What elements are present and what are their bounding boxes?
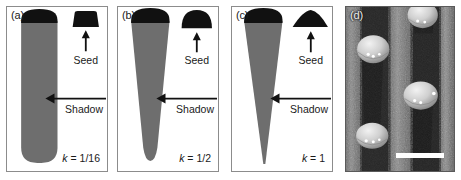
- k-value-a: 1/16: [80, 152, 100, 164]
- shadow-label-b: Shadow: [176, 103, 214, 115]
- shadow-shape-b: [131, 21, 169, 161]
- shadow-label-a: Shadow: [65, 103, 103, 115]
- shadow-label-c: Shadow: [290, 103, 328, 115]
- seed-label-a: Seed: [73, 54, 98, 66]
- k-equals-b: =: [184, 152, 196, 164]
- shadow-shape-a: [21, 21, 57, 163]
- panel-c: (c) Seed Shadow k = 1: [231, 6, 333, 172]
- panel-d: (d): [345, 6, 455, 172]
- seed-arrow-head-c: [307, 31, 315, 39]
- k-value-b: 1/2: [196, 152, 211, 164]
- seed-label-b: Seed: [184, 54, 209, 66]
- panel-c-diagram: [232, 7, 332, 171]
- panel-a-label: (a): [11, 9, 24, 21]
- seed-cap-a: [21, 9, 57, 23]
- k-label-a: k = 1/16: [62, 152, 100, 164]
- seed-label-c: Seed: [298, 54, 323, 66]
- seed-arrow-head-b: [193, 32, 201, 40]
- seed-glyph-a: [73, 11, 99, 27]
- seed-cap-c: [244, 8, 282, 23]
- scale-bar: [396, 153, 444, 158]
- particle-middle-right: [404, 81, 438, 109]
- k-value-c: 1: [319, 152, 325, 164]
- particle-upper-left: [357, 35, 389, 63]
- seed-arrow-head-a: [82, 30, 90, 38]
- panel-b: (b) Seed Shadow k = 1/2: [117, 6, 219, 172]
- k-label-c: k = 1: [302, 152, 325, 164]
- sem-micrograph: [346, 7, 454, 171]
- panel-c-label: (c): [236, 9, 248, 21]
- panel-d-label: (d): [350, 9, 363, 21]
- seed-cap-b: [131, 8, 169, 23]
- k-label-b: k = 1/2: [179, 152, 211, 164]
- wall-texture-left: [346, 7, 360, 171]
- k-equals-c: =: [307, 152, 319, 164]
- k-equals-a: =: [68, 152, 80, 164]
- panel-b-label: (b): [122, 9, 135, 21]
- seed-glyph-c: [293, 10, 328, 27]
- wall-texture-right: [441, 7, 454, 171]
- shadow-shape-c: [244, 21, 282, 164]
- seed-glyph-b: [182, 10, 212, 28]
- particle-lower-left: [356, 123, 388, 149]
- figure-root: (a) Seed Shadow k = 1/16 (b): [0, 0, 461, 180]
- panel-a-diagram: [7, 7, 107, 171]
- panel-b-diagram: [118, 7, 218, 171]
- panel-a: (a) Seed Shadow k = 1/16: [6, 6, 108, 172]
